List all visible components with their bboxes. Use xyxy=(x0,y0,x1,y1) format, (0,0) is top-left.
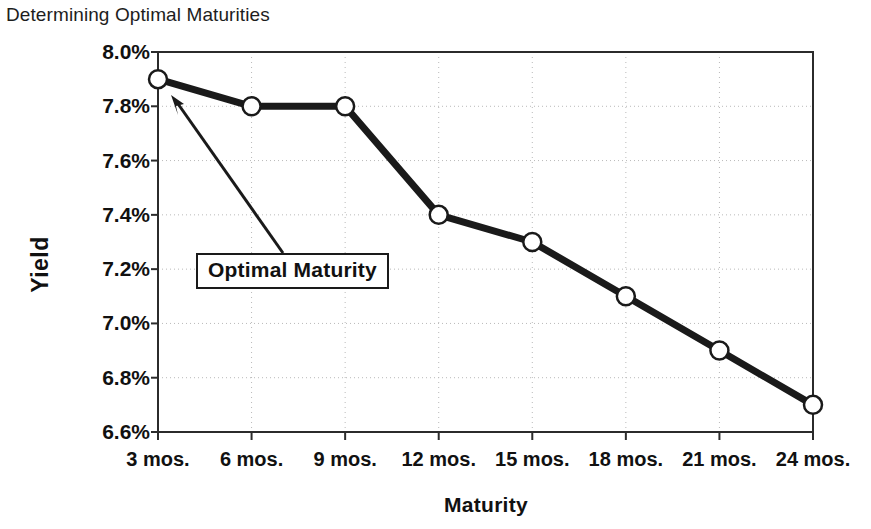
data-point-marker[interactable] xyxy=(149,70,167,88)
data-point-marker[interactable] xyxy=(804,396,822,414)
data-point-marker[interactable] xyxy=(523,233,541,251)
chart-container: Determining Optimal Maturities Yield Mat… xyxy=(0,0,871,529)
data-point-marker[interactable] xyxy=(243,97,261,115)
series-markers xyxy=(149,70,822,414)
data-point-marker[interactable] xyxy=(336,97,354,115)
annotation-arrow xyxy=(171,95,283,253)
data-point-marker[interactable] xyxy=(430,206,448,224)
annotation-arrow-line xyxy=(176,101,283,253)
plot-area xyxy=(0,0,871,529)
annotation-optimal-maturity: Optimal Maturity xyxy=(196,253,389,289)
data-point-marker[interactable] xyxy=(617,287,635,305)
data-point-marker[interactable] xyxy=(710,342,728,360)
